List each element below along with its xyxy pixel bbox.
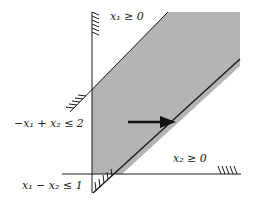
hatch-x1-nonneg [92, 12, 99, 35]
feasible-region [92, 12, 240, 174]
label-x1-nonneg: x₁ ≥ 0 [110, 11, 144, 22]
hatch-x2-nonneg [218, 166, 237, 174]
label-x2-nonneg: x₂ ≥ 0 [173, 153, 207, 164]
label-c4: x₁ − x₂ ≤ 1 [22, 180, 83, 191]
label-c2: −x₁ + x₂ ≤ 2 [14, 118, 84, 129]
